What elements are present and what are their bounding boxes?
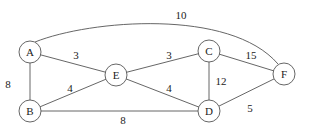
edge-e-c bbox=[116, 51, 209, 75]
edge-b-e bbox=[30, 75, 116, 111]
node-label: F bbox=[281, 68, 287, 80]
edge-weight-b-d: 8 bbox=[120, 114, 126, 126]
node-c: C bbox=[198, 40, 220, 62]
node-d: D bbox=[198, 100, 220, 122]
edge-weight-a-f: 10 bbox=[176, 9, 188, 21]
edges-layer bbox=[30, 24, 284, 111]
weighted-graph-diagram: 8348341215510 ABECDF bbox=[0, 0, 312, 131]
node-b: B bbox=[19, 100, 41, 122]
node-e: E bbox=[105, 64, 127, 86]
node-label: D bbox=[205, 105, 213, 117]
edge-weight-a-b: 8 bbox=[5, 78, 11, 90]
node-label: E bbox=[113, 69, 120, 81]
node-f: F bbox=[273, 63, 295, 85]
node-label: A bbox=[26, 46, 34, 58]
edge-weight-a-e: 3 bbox=[73, 49, 79, 61]
edge-weight-d-f: 5 bbox=[247, 102, 253, 114]
edge-a-f bbox=[35, 24, 278, 64]
node-a: A bbox=[19, 41, 41, 63]
edge-weight-c-f: 15 bbox=[246, 49, 258, 61]
edge-e-d bbox=[116, 75, 209, 111]
node-label: B bbox=[26, 105, 33, 117]
edge-weight-b-e: 4 bbox=[67, 82, 73, 94]
edge-weight-e-d: 4 bbox=[166, 82, 172, 94]
edge-weight-c-d: 12 bbox=[216, 75, 227, 87]
edge-weight-e-c: 3 bbox=[166, 49, 172, 61]
node-label: C bbox=[205, 45, 212, 57]
